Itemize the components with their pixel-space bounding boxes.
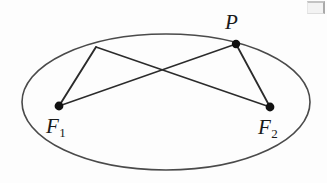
segment-upper-left-to-focus1	[59, 47, 96, 106]
point-F1-label: F1	[46, 116, 66, 139]
point-F1-label-base: F	[46, 114, 59, 138]
point-F2-label-base: F	[258, 115, 271, 139]
point-F1-label-subscript: 1	[59, 125, 66, 140]
figure-canvas	[0, 0, 327, 183]
point-F2-label-subscript: 2	[271, 126, 278, 141]
point-F2-label: F2	[258, 117, 278, 140]
segment-P-to-focus1	[59, 44, 236, 106]
point-P-label: P	[225, 12, 238, 33]
point-F1-marker	[55, 102, 64, 111]
segment-upper-left-to-focus2	[96, 47, 270, 107]
ellipse-figure: P F1 F2	[0, 0, 327, 183]
point-F2-marker	[266, 103, 275, 112]
scan-artifact	[307, 1, 325, 14]
point-P-label-text: P	[225, 10, 238, 34]
point-P-marker	[232, 40, 240, 48]
